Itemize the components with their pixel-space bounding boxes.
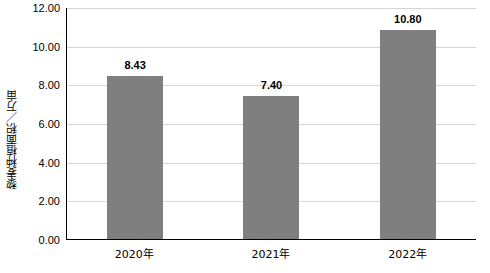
- bar-slot: 10.80: [340, 8, 476, 239]
- x-tick-label: 2021年: [252, 248, 291, 261]
- y-axis-title: 黎麦种植面积／万亩: [6, 50, 22, 230]
- bar[interactable]: [107, 76, 163, 239]
- x-tick-slot: 2022年: [339, 244, 476, 262]
- y-tick-label: 6.00: [39, 118, 60, 130]
- bar-value-label: 10.80: [394, 13, 422, 25]
- x-tick-slot: 2021年: [203, 244, 340, 262]
- x-tick-label: 2020年: [115, 248, 154, 261]
- bar[interactable]: [380, 30, 436, 239]
- bar-value-label: 8.43: [124, 59, 145, 71]
- y-axis-tick-labels: 0.00 2.00 4.00 6.00 8.00 10.00 12.00: [22, 8, 64, 240]
- bar[interactable]: [243, 96, 299, 239]
- bar-value-label: 7.40: [261, 79, 282, 91]
- y-tick-label: 4.00: [39, 157, 60, 169]
- x-tick-label: 2022年: [388, 248, 427, 261]
- y-tick-label: 0.00: [39, 234, 60, 246]
- x-tick-slot: 2020年: [66, 244, 203, 262]
- y-tick-label: 8.00: [39, 79, 60, 91]
- plot-area: 8.43 7.40 10.80: [66, 8, 476, 240]
- bar-chart: 黎麦种植面积／万亩 0.00 2.00 4.00 6.00 8.00 10.00…: [0, 0, 490, 273]
- bar-slot: 8.43: [67, 8, 203, 239]
- bars-layer: 8.43 7.40 10.80: [67, 8, 476, 239]
- y-tick-label: 2.00: [39, 195, 60, 207]
- bar-slot: 7.40: [203, 8, 339, 239]
- x-axis-tick-labels: 2020年 2021年 2022年: [66, 244, 476, 262]
- y-tick-label: 10.00: [32, 41, 60, 53]
- y-tick-label: 12.00: [32, 2, 60, 14]
